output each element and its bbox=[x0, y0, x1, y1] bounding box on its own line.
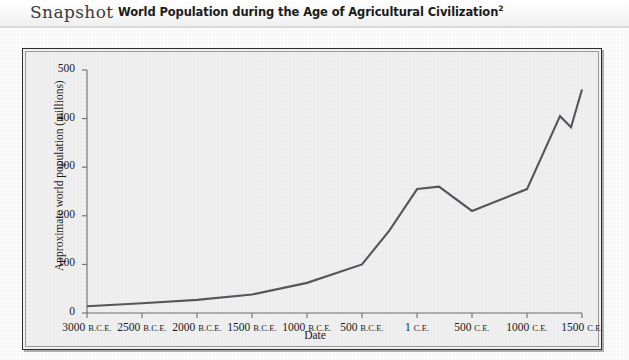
x-tick-label: 1000 C.E. bbox=[506, 321, 547, 333]
plot-canvas bbox=[26, 52, 600, 348]
chart-inner-frame: Approximate world population (millions) … bbox=[25, 51, 599, 347]
x-tick-label: 2500 B.C.E. bbox=[117, 321, 166, 333]
page-title: World Population during the Age of Agric… bbox=[118, 5, 503, 19]
chart-title-footnote-marker: 2 bbox=[498, 4, 503, 13]
y-tick-label: 300 bbox=[41, 159, 75, 171]
x-tick-label: 1500 B.C.E. bbox=[227, 321, 276, 333]
y-tick-label: 100 bbox=[41, 256, 75, 268]
y-tick-label: 500 bbox=[41, 62, 75, 74]
data-series-group bbox=[87, 89, 582, 306]
x-axis-ticks bbox=[87, 313, 582, 318]
snapshot-label: Snapshot bbox=[30, 2, 114, 22]
x-tick-label: 3000 B.C.E. bbox=[62, 321, 111, 333]
chart-title-text: World Population during the Age of Agric… bbox=[118, 5, 498, 19]
population-line bbox=[87, 89, 582, 306]
y-axis-ticks bbox=[82, 70, 87, 313]
figure-header: Snapshot World Population during the Age… bbox=[0, 0, 629, 27]
y-tick-label: 0 bbox=[41, 305, 75, 317]
figure-body: Approximate world population (millions) … bbox=[0, 28, 629, 360]
x-tick-label: 1000 B.C.E. bbox=[282, 321, 331, 333]
x-tick-label: 1 C.E. bbox=[405, 321, 429, 333]
chart-frame: Approximate world population (millions) … bbox=[22, 48, 602, 350]
y-tick-label: 200 bbox=[41, 208, 75, 220]
x-tick-label: 500 B.C.E. bbox=[340, 321, 384, 333]
x-tick-label: 500 C.E. bbox=[454, 321, 490, 333]
x-tick-label: 1500 C.E. bbox=[561, 321, 602, 333]
y-tick-label: 400 bbox=[41, 111, 75, 123]
axes-group bbox=[87, 70, 582, 313]
x-tick-label: 2000 B.C.E. bbox=[172, 321, 221, 333]
